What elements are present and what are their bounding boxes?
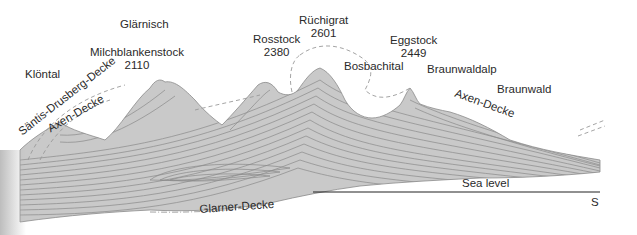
peak-elevation: 2449 [390, 47, 437, 60]
page-edge-shadow [0, 150, 26, 235]
peak-label-eggstock: Eggstock 2449 [390, 34, 437, 60]
peak-name: Milchblankenstock [90, 46, 184, 59]
peak-name: Rosstock [253, 33, 300, 46]
peak-label-rosstock: Rosstock 2380 [253, 33, 300, 59]
rosstock-eroded-line [290, 55, 300, 92]
peak-elevation: 2601 [299, 27, 348, 40]
place-label-klontal: Klöntal [25, 68, 60, 81]
place-label-bosbachital: Bosbachital [344, 60, 403, 73]
direction-label-south: S [591, 196, 599, 209]
peak-label-ruchigrat: Rüchigrat 2601 [299, 14, 348, 40]
peak-name: Rüchigrat [299, 14, 348, 27]
sea-level-label: Sea level [462, 177, 509, 190]
place-label-braunwald: Braunwald [497, 83, 551, 96]
peak-name: Eggstock [390, 34, 437, 47]
braunwald-eroded-line [580, 120, 605, 130]
peak-label-glarnisch: Glärnisch [120, 18, 169, 31]
braunwald-eroded-line-2 [578, 126, 605, 136]
peak-elevation: 2380 [253, 46, 300, 59]
place-label-braunwaldalp: Braunwaldalp [427, 63, 497, 76]
